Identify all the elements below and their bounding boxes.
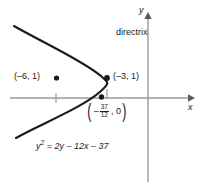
point-marker-x-intercept [99, 94, 104, 99]
point-marker-focus [54, 75, 59, 80]
fraction-37-12: 37 12 [100, 104, 109, 119]
open-paren: ( [87, 101, 91, 121]
y-axis-label: y [139, 6, 144, 15]
point-label-x-intercept: ( – 37 12 , 0 ) [86, 100, 128, 122]
point-label-vertex: (–3, 1) [113, 72, 139, 81]
equation-remainder: = 2y – 12x – 37 [44, 141, 108, 151]
x-axis-arrowhead [188, 94, 195, 102]
equation-label: y2 = 2y – 12x – 37 [36, 140, 108, 151]
directrix-label: directrix [116, 28, 148, 37]
graph-canvas [0, 0, 210, 185]
point-label-focus: (–6, 1) [14, 72, 40, 81]
minus-sign: – [93, 107, 99, 116]
fraction-numerator: 37 [100, 104, 109, 111]
parabola-figure: y x directrix (–6, 1) (–3, 1) ( – 37 12 … [0, 0, 210, 185]
close-paren: ) [122, 101, 126, 121]
point-marker-vertex [104, 75, 110, 81]
x-axis-label: x [188, 103, 193, 112]
y-axis-arrowhead [144, 12, 151, 19]
fraction-denominator: 12 [100, 112, 109, 119]
point-label-y-part: , 0 [110, 107, 121, 116]
